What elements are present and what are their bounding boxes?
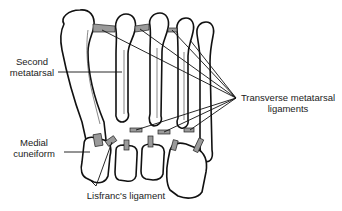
third-metatarsal: [149, 13, 168, 126]
label-second-metatarsal: Second metatarsal: [6, 56, 58, 78]
second-metatarsal-bone: [116, 14, 136, 122]
label-transverse-metatarsal-ligaments: Transverse metatarsal ligaments: [238, 92, 338, 114]
fourth-metatarsal: [177, 18, 194, 128]
intermediate-cuneiform: [115, 145, 137, 181]
label-medial-cuneiform: Medial cuneiform: [8, 137, 60, 159]
label-lisfranc-ligament: Lisfranc's ligament: [76, 190, 176, 201]
lateral-cuneiform: [141, 144, 164, 180]
